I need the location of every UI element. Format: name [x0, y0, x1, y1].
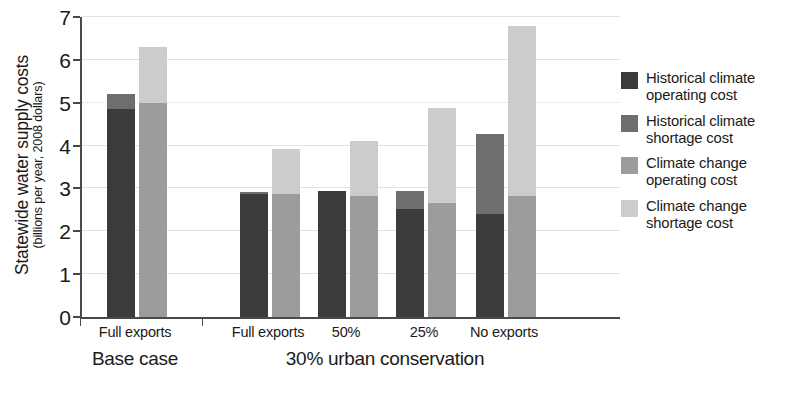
bar-historical-group-2 [318, 17, 346, 317]
legend-swatch-icon [621, 115, 638, 132]
y-tick-mark-3 [73, 187, 80, 189]
legend-label-line2: shortage cost [646, 130, 755, 147]
plot-area [80, 17, 620, 319]
bar-segment [476, 134, 504, 215]
bar-historical-group-4 [476, 17, 504, 317]
bar-climate-change-group-2 [350, 17, 378, 317]
y-axis-title-sub: (billions per year, 2008 dollars) [32, 55, 45, 275]
legend-item-2[interactable]: Climate changeoperating cost [621, 155, 807, 190]
legend-label-line2: shortage cost [646, 215, 747, 232]
legend-label-line1: Historical climate [646, 113, 755, 130]
x-tick-label-3: 25% [410, 324, 438, 340]
legend-item-3[interactable]: Climate changeshortage cost [621, 198, 807, 233]
x-axis-group-separator-tick [202, 319, 203, 326]
x-axis-group-label-1: 30% urban conservation [286, 348, 484, 370]
legend-item-1[interactable]: Historical climateshortage cost [621, 113, 807, 148]
legend-item-label: Historical climateshortage cost [646, 113, 755, 148]
bar-historical-group-3 [396, 17, 424, 317]
bar-climate-change-group-1 [272, 17, 300, 317]
legend-label-line2: operating cost [646, 87, 755, 104]
legend-swatch-icon [621, 157, 638, 174]
legend-label-line2: operating cost [646, 172, 747, 189]
bar-segment [396, 191, 424, 209]
bar-segment [350, 141, 378, 196]
x-tick-label-2: 50% [332, 324, 360, 340]
bar-climate-change-group-3 [428, 17, 456, 317]
bar-segment [240, 194, 268, 317]
bar-segment [318, 191, 346, 317]
bar-segment [508, 26, 536, 196]
y-tick-label-3: 3 [31, 178, 71, 199]
x-tick-label-0: Full exports [99, 324, 172, 340]
y-tick-label-6: 6 [31, 49, 71, 70]
x-axis-group-label-0: Base case [92, 348, 178, 370]
y-tick-mark-6 [73, 59, 80, 61]
bar-segment [428, 203, 456, 317]
bar-segment [272, 194, 300, 317]
bar-historical-group-1 [240, 17, 268, 317]
y-tick-label-0: 0 [31, 307, 71, 328]
bar-segment [396, 209, 424, 317]
legend-item-label: Climate changeshortage cost [646, 198, 747, 233]
bar-segment [476, 214, 504, 317]
y-tick-mark-0 [73, 316, 80, 318]
x-tick-label-4: No exports [470, 324, 538, 340]
bar-segment [428, 108, 456, 203]
bar-segment [240, 192, 268, 194]
y-tick-mark-2 [73, 230, 80, 232]
y-tick-label-2: 2 [31, 221, 71, 242]
y-tick-mark-5 [73, 102, 80, 104]
legend-swatch-icon [621, 72, 638, 89]
y-tick-mark-7 [73, 16, 80, 18]
bar-segment [107, 94, 135, 109]
legend-item-label: Historical climateoperating cost [646, 70, 755, 105]
bar-segment [139, 103, 167, 317]
bar-segment [272, 149, 300, 194]
bar-segment [350, 196, 378, 317]
legend-label-line1: Climate change [646, 198, 747, 215]
legend-item-0[interactable]: Historical climateoperating cost [621, 70, 807, 105]
y-axis-title-main: Statewide water supply costs [13, 55, 31, 275]
x-axis-origin-tick [80, 319, 81, 326]
y-tick-label-1: 1 [31, 264, 71, 285]
bar-climate-change-group-4 [508, 17, 536, 317]
chart-figure: Statewide water supply costs (billions p… [0, 0, 810, 393]
chart-legend: Historical climateoperating costHistoric… [621, 70, 807, 240]
y-tick-label-7: 7 [31, 7, 71, 28]
legend-label-line1: Climate change [646, 155, 747, 172]
x-tick-label-1: Full exports [232, 324, 305, 340]
legend-swatch-icon [621, 200, 638, 217]
y-tick-label-4: 4 [31, 135, 71, 156]
y-tick-mark-1 [73, 273, 80, 275]
legend-label-line1: Historical climate [646, 70, 755, 87]
legend-item-label: Climate changeoperating cost [646, 155, 747, 190]
bar-segment [508, 196, 536, 317]
y-tick-mark-4 [73, 145, 80, 147]
bar-climate-change-group-0 [139, 17, 167, 317]
bar-segment [107, 109, 135, 317]
bar-historical-group-0 [107, 17, 135, 317]
y-tick-label-5: 5 [31, 92, 71, 113]
bar-segment [139, 47, 167, 103]
